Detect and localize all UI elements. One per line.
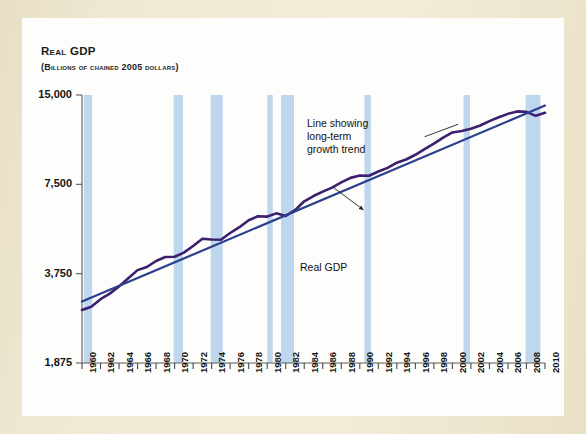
x-axis-tick-label: 2000 <box>457 352 468 373</box>
y-axis-tick-label: 3,750 <box>20 267 72 279</box>
x-axis-tick-label: 2002 <box>475 352 486 373</box>
x-axis-tick-label: 1966 <box>142 352 153 373</box>
x-axis-tick-label: 1982 <box>290 352 301 373</box>
figure-root: Real GDP (Billions of chained 2005 dolla… <box>0 0 586 434</box>
recession-band <box>84 95 92 363</box>
x-axis-tick-label: 1968 <box>161 352 172 373</box>
y-axis-tick-label: 1,875 <box>20 356 72 368</box>
x-axis-tick-label: 1964 <box>124 352 135 373</box>
annotation-line: Real GDP <box>300 261 347 274</box>
x-axis-tick-label: 1978 <box>253 352 264 373</box>
annotation-line: growth trend <box>307 143 368 156</box>
x-axis-tick-label: 1976 <box>235 352 246 373</box>
x-axis-tick-label: 1960 <box>87 352 98 373</box>
x-axis-tick-label: 1974 <box>216 352 227 373</box>
x-axis-tick-label: 1998 <box>438 352 449 373</box>
x-axis-tick-label: 1988 <box>346 352 357 373</box>
x-axis-tick-label: 1962 <box>105 352 116 373</box>
y-axis-tick-label: 15,000 <box>20 88 72 100</box>
annotation-line: long-term <box>307 130 368 143</box>
x-axis-tick-label: 1984 <box>309 352 320 373</box>
x-axis-tick-label: 1992 <box>383 352 394 373</box>
annotation-leader-line <box>425 124 458 136</box>
x-axis-tick-label: 1980 <box>272 352 283 373</box>
x-axis-tick-label: 1996 <box>420 352 431 373</box>
x-axis-tick-label: 2004 <box>494 352 505 373</box>
recession-band <box>281 95 294 363</box>
chart-plot-area: Real GDP (Billions of chained 2005 dolla… <box>22 18 564 416</box>
x-axis-tick-label: 1994 <box>401 352 412 373</box>
recession-band <box>464 95 470 363</box>
x-axis-tick-label: 2008 <box>531 352 542 373</box>
x-axis-tick-label: 1972 <box>198 352 209 373</box>
x-axis-tick-label: 2006 <box>512 352 523 373</box>
recession-band <box>211 95 223 363</box>
real-gdp-annotation: Real GDP <box>300 261 347 274</box>
chart-card: Real GDP (Billions of chained 2005 dolla… <box>22 18 564 416</box>
x-axis-tick-label: 1970 <box>179 352 190 373</box>
recession-band <box>267 95 273 363</box>
y-axis-tick-label: 7,500 <box>20 177 72 189</box>
x-axis-tick-label: 2010 <box>550 352 561 373</box>
recession-band <box>174 95 183 363</box>
recession-band <box>526 95 541 363</box>
annotation-line: Line showing <box>307 117 368 130</box>
x-axis-tick-label: 1986 <box>327 352 338 373</box>
trend-line-annotation: Line showinglong-termgrowth trend <box>307 117 368 156</box>
x-axis-tick-label: 1990 <box>364 352 375 373</box>
